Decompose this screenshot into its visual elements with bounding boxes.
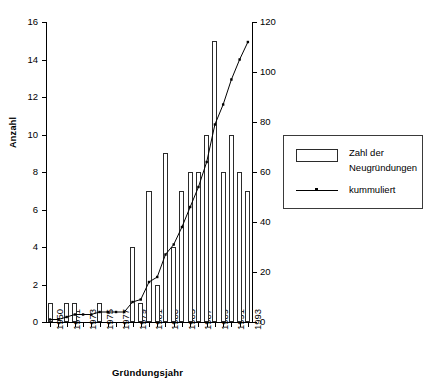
y-tick-label-right: 80 <box>260 116 290 127</box>
x-tick <box>174 322 175 327</box>
bar <box>171 247 176 322</box>
y-tick-left <box>42 135 47 136</box>
x-tick <box>75 322 76 327</box>
bar <box>229 135 234 323</box>
legend-label-bar-line1: Zahl der <box>349 147 384 158</box>
y-tick-left <box>42 172 47 173</box>
y-tick-label-left: 16 <box>12 16 38 27</box>
legend-marker-dot <box>315 188 318 191</box>
y-tick-left <box>42 60 47 61</box>
bar <box>146 191 151 322</box>
x-tick <box>215 322 216 327</box>
y-tick-left <box>42 22 47 23</box>
y-tick-label-left: 0 <box>12 316 38 327</box>
y-tick-label-right: 0 <box>260 316 290 327</box>
bar <box>163 153 168 322</box>
x-tick <box>248 322 249 327</box>
x-tick <box>207 322 208 327</box>
x-tick <box>108 322 109 327</box>
cumulative-point <box>173 243 175 245</box>
legend-label-line: kummuliert <box>349 184 395 195</box>
x-axis-title: Gründungsjahr <box>112 367 183 378</box>
y-tick-right <box>252 222 257 223</box>
cumulative-point <box>140 298 142 300</box>
x-tick <box>100 322 101 327</box>
x-tick <box>231 322 232 327</box>
y-tick-left <box>42 97 47 98</box>
cumulative-point <box>230 78 232 80</box>
cumulative-point <box>238 58 240 60</box>
y-tick-right <box>252 72 257 73</box>
x-tick <box>149 322 150 327</box>
y-tick-label-left: 8 <box>12 166 38 177</box>
y-tick-label-left: 4 <box>12 241 38 252</box>
y-tick-label-left: 10 <box>12 129 38 140</box>
y-tick-right <box>252 122 257 123</box>
bar <box>138 303 143 322</box>
x-tick <box>223 322 224 327</box>
x-tick <box>50 322 51 327</box>
y-tick-label-left: 12 <box>12 91 38 102</box>
y-tick-left <box>42 285 47 286</box>
y-tick-left <box>42 247 47 248</box>
bar <box>130 247 135 322</box>
x-tick-label: 1993 <box>252 309 263 330</box>
x-tick <box>133 322 134 327</box>
bar <box>237 172 242 322</box>
bar <box>188 172 193 322</box>
bar <box>97 303 102 322</box>
bar <box>155 285 160 323</box>
y-tick-left <box>42 322 47 323</box>
x-tick <box>124 322 125 327</box>
x-tick <box>182 322 183 327</box>
cumulative-point <box>82 313 84 315</box>
y-tick-label-left: 14 <box>12 54 38 65</box>
legend-swatch-bar <box>296 149 338 162</box>
x-tick <box>240 322 241 327</box>
bar <box>179 191 184 322</box>
x-tick <box>157 322 158 327</box>
y-tick-label-left: 6 <box>12 204 38 215</box>
x-tick <box>67 322 68 327</box>
bar <box>72 303 77 322</box>
y-tick-right <box>252 172 257 173</box>
bar <box>212 41 217 322</box>
bar <box>221 172 226 322</box>
y-tick-label-right: 20 <box>260 266 290 277</box>
cumulative-point <box>247 41 249 43</box>
x-tick-label: 1975 <box>104 309 115 330</box>
x-tick <box>58 322 59 327</box>
cumulative-point <box>156 276 158 278</box>
x-tick <box>116 322 117 327</box>
x-tick <box>198 322 199 327</box>
cumulative-point <box>222 103 224 105</box>
y-tick-left <box>42 210 47 211</box>
legend: Zahl der Neugründungen kummuliert <box>283 135 423 209</box>
x-tick <box>190 322 191 327</box>
cumulative-point <box>115 311 117 313</box>
y-tick-right <box>252 22 257 23</box>
bar <box>196 172 201 322</box>
x-tick <box>83 322 84 327</box>
legend-label-bar-line2: Neugründungen <box>349 162 417 173</box>
bar <box>245 191 250 322</box>
y-tick-label-right: 100 <box>260 66 290 77</box>
y-tick-right <box>252 272 257 273</box>
x-tick <box>141 322 142 327</box>
bar <box>64 303 69 322</box>
chart-root: Anzahl 0246810121416 020406080100120 195… <box>0 0 428 387</box>
bar <box>48 303 53 322</box>
y-tick-label-right: 40 <box>260 216 290 227</box>
x-tick <box>91 322 92 327</box>
x-tick <box>165 322 166 327</box>
y-tick-label-right: 120 <box>260 16 290 27</box>
y-tick-label-left: 2 <box>12 279 38 290</box>
bar <box>204 135 209 323</box>
